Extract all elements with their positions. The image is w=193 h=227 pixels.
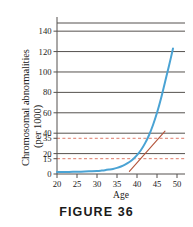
y-tick-label-20: 20 (43, 149, 52, 159)
x-axis-ticks: 20253035404550 (53, 174, 182, 189)
x-tick-label-35: 35 (113, 179, 122, 189)
y-tick-label-120: 120 (39, 47, 52, 57)
chart-plot-area: 0152035406080100120140 20253035404550 Ag… (0, 0, 193, 205)
figure-caption: FIGURE 36 (0, 205, 193, 219)
x-tick-label-30: 30 (93, 179, 102, 189)
x-tick-label-50: 50 (173, 179, 182, 189)
y-tick-label-100: 100 (39, 67, 52, 77)
gridlines-solid (57, 31, 185, 153)
gridlines-dashed (57, 138, 185, 158)
x-tick-label-20: 20 (53, 179, 62, 189)
x-tick-label-25: 25 (73, 179, 82, 189)
figure-container: Chromosomal abnormalities (per 1000) 015… (0, 0, 193, 227)
x-tick-label-40: 40 (133, 179, 142, 189)
axis-lines (57, 17, 185, 174)
y-axis-ticks: 0152035406080100120140 (39, 26, 57, 179)
y-tick-label-0: 0 (47, 169, 51, 179)
y-tick-label-40: 40 (43, 128, 52, 138)
x-axis-title: Age (113, 190, 129, 200)
x-tick-label-45: 45 (153, 179, 162, 189)
y-tick-label-140: 140 (39, 26, 52, 36)
y-tick-label-60: 60 (43, 108, 52, 118)
y-tick-label-80: 80 (43, 87, 52, 97)
